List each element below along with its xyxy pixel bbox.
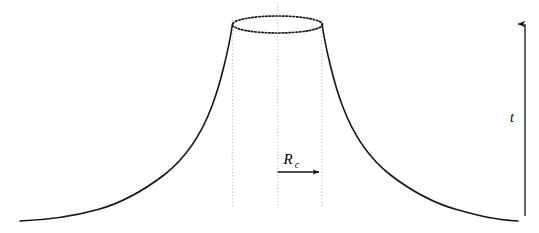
figure-container: R c t: [0, 0, 539, 233]
radius-label-base: R: [282, 151, 292, 167]
radius-label-subscript: c: [295, 159, 300, 170]
diagram-canvas: R c t: [0, 0, 539, 233]
figure-background: [0, 0, 539, 233]
